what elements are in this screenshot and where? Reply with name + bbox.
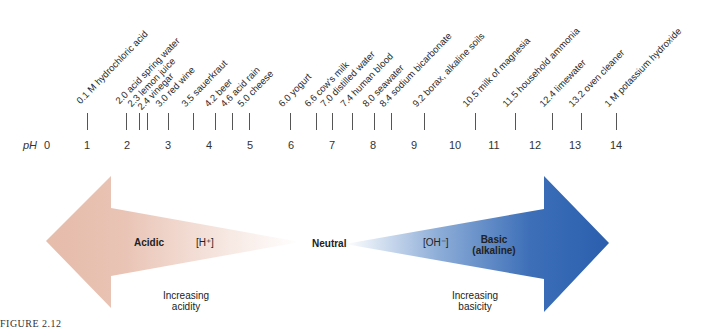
tick-mark xyxy=(352,113,353,130)
tick-mark xyxy=(139,113,140,130)
tick-mark xyxy=(424,113,425,130)
ph-number: 5 xyxy=(247,139,253,151)
ph-number: 6 xyxy=(288,139,294,151)
neutral-label: Neutral xyxy=(312,238,346,249)
acidity-trend-label: Increasing acidity xyxy=(163,290,209,312)
ph-number: 0 xyxy=(44,139,50,151)
acidic-arrow xyxy=(46,176,300,308)
acidity-trend-line2: acidity xyxy=(163,301,209,312)
ph-scale-diagram: 0.1 M hydrochloric acid 2.0 acid spring … xyxy=(0,0,715,331)
tick-mark xyxy=(215,113,216,130)
ph-number: 9 xyxy=(411,139,417,151)
tick-mark xyxy=(316,113,317,130)
basicity-trend-line2: basicity xyxy=(452,301,498,312)
hydroxide-ion-label: [OH⁻] xyxy=(423,237,449,248)
acidity-trend-line1: Increasing xyxy=(163,290,209,301)
tick-mark xyxy=(290,113,291,130)
basicity-trend-line1: Increasing xyxy=(452,290,498,301)
tick-mark xyxy=(232,113,233,130)
tick-mark xyxy=(249,113,250,130)
tick-mark xyxy=(515,113,516,130)
ph-number: 8 xyxy=(370,139,376,151)
ph-number: 2 xyxy=(124,139,130,151)
basic-label-line1: Basic xyxy=(472,234,515,245)
tick-mark xyxy=(147,113,148,130)
ph-axis-label: pH xyxy=(23,139,37,151)
tick-mark xyxy=(391,113,392,130)
ph-number: 1 xyxy=(84,139,90,151)
ph-number: 14 xyxy=(610,139,622,151)
basicity-trend-label: Increasing basicity xyxy=(452,290,498,312)
acid-base-arrows xyxy=(0,0,715,331)
acidic-label: Acidic xyxy=(134,237,164,248)
basic-label-line2: (alkaline) xyxy=(472,245,515,256)
tick-mark xyxy=(552,113,553,130)
basic-label: Basic (alkaline) xyxy=(472,234,515,256)
tick-mark xyxy=(332,113,333,130)
ph-number: 11 xyxy=(488,139,499,151)
tick-mark xyxy=(87,113,88,130)
hydrogen-ion-label: [H⁺] xyxy=(196,237,214,248)
tick-mark xyxy=(193,113,194,130)
ph-number: 10 xyxy=(449,139,461,151)
tick-mark xyxy=(581,113,582,130)
ph-number: 13 xyxy=(569,139,581,151)
figure-caption: FIGURE 2.12 xyxy=(0,318,62,329)
tick-mark xyxy=(126,113,127,130)
tick-mark xyxy=(475,113,476,130)
ph-number: 7 xyxy=(329,139,335,151)
tick-mark xyxy=(168,113,169,130)
ph-number: 12 xyxy=(529,139,541,151)
ph-number: 4 xyxy=(206,139,212,151)
tick-mark xyxy=(374,113,375,130)
ph-number: 3 xyxy=(165,139,171,151)
tick-mark xyxy=(616,113,617,130)
